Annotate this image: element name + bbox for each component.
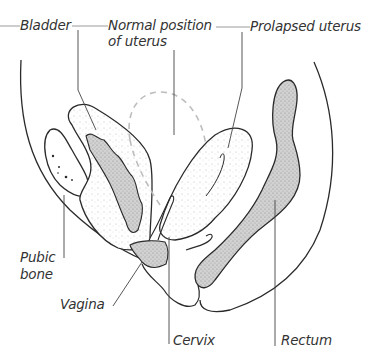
label-pubic-bone-line1: Pubic: [20, 250, 55, 265]
vagina-leader: [113, 262, 142, 306]
perineum-outline: [142, 264, 199, 306]
label-normal-position-line2: of uterus: [108, 34, 167, 49]
label-rectum: Rectum: [281, 333, 332, 348]
label-prolapsed-uterus: Prolapsed uterus: [250, 19, 361, 34]
anatomy-illustration: [0, 0, 368, 353]
label-bladder: Bladder: [20, 18, 71, 33]
perineal-body: [130, 241, 168, 268]
label-pubic-bone-line2: bone: [20, 267, 53, 282]
prolapse-diagram: Bladder Normal position of uterus Prolap…: [0, 0, 368, 353]
label-vagina: Vagina: [60, 297, 105, 312]
prolapsed-uterus-shape: [160, 128, 253, 240]
label-normal-position-line1: Normal position: [108, 18, 212, 33]
label-cervix: Cervix: [173, 333, 215, 348]
